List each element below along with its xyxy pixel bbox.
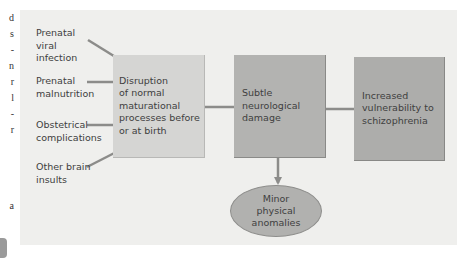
ellipse-text: Minor physical anomalies [252, 193, 301, 229]
box-line: Disruption [119, 75, 200, 88]
box-line: Subtle [242, 87, 300, 100]
label-line: Prenatal [36, 75, 94, 88]
label-line: malnutrition [36, 88, 94, 101]
input-prenatal-malnutrition: Prenatal malnutrition [36, 75, 94, 100]
box-line: processes before [119, 112, 200, 125]
box-disruption-maturational: Disruption of normal maturational proces… [113, 55, 205, 158]
input-prenatal-viral-infection: Prenatal viral infection [36, 27, 77, 65]
box-line: schizophrenia [362, 115, 434, 128]
label-line: insults [36, 174, 90, 187]
ellipse-line: Minor [252, 193, 301, 205]
box-line: or at birth [119, 125, 200, 138]
box-line: maturational [119, 100, 200, 113]
label-line: complications [36, 132, 102, 145]
box-line: vulnerability to [362, 102, 434, 115]
ellipse-line: physical [252, 205, 301, 217]
ellipse-line: anomalies [252, 217, 301, 229]
box-subtle-neurological-damage: Subtle neurological damage [234, 55, 326, 158]
box-text: Subtle neurological damage [242, 87, 300, 125]
label-line: Prenatal [36, 27, 77, 40]
input-other-brain-insults: Other brain insults [36, 161, 90, 186]
box-text: Disruption of normal maturational proces… [119, 75, 200, 138]
label-line: viral [36, 40, 77, 53]
input-obstetrical-complications: Obstetrical complications [36, 119, 102, 144]
box-increased-vulnerability: Increased vulnerability to schizophrenia [354, 57, 445, 161]
box-line: Increased [362, 90, 434, 103]
label-line: infection [36, 52, 77, 65]
box-line: of normal [119, 87, 200, 100]
box-line: neurological [242, 100, 300, 113]
box-text: Increased vulnerability to schizophrenia [362, 90, 434, 128]
label-line: Other brain [36, 161, 90, 174]
ellipse-minor-physical-anomalies: Minor physical anomalies [230, 185, 322, 237]
box-line: damage [242, 112, 300, 125]
label-line: Obstetrical [36, 119, 102, 132]
